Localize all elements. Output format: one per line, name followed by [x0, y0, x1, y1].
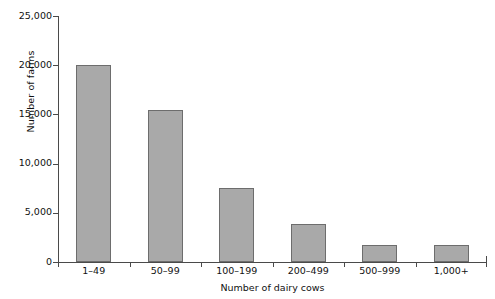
bar-500-999 — [362, 245, 397, 262]
x-tick-label-500-999: 500–999 — [344, 266, 416, 276]
plot-area — [58, 16, 487, 262]
y-tick-label-0: 0 — [6, 257, 52, 267]
x-tick-label-50-99: 50–99 — [130, 266, 202, 276]
y-tick-label-25000: 25,000 — [6, 11, 52, 21]
x-tick-label-100-199: 100–199 — [201, 266, 273, 276]
bar-1-49 — [76, 65, 111, 262]
y-tick-label-15000: 15,000 — [6, 109, 52, 119]
y-axis-tick-labels: 25,000 20,000 15,000 10,000 5,000 0 — [2, 0, 52, 299]
x-tick-label-1-49: 1–49 — [58, 266, 130, 276]
bar-100-199 — [219, 188, 254, 262]
bar-200-499 — [291, 224, 326, 262]
x-axis-tick-labels: 1–49 50–99 100–199 200–499 500–999 1,000… — [58, 266, 487, 280]
bars-layer — [58, 16, 487, 262]
bar-1000-plus — [434, 245, 469, 262]
bar-chart: Number of farms 25,000 20,000 15,000 10,… — [0, 0, 495, 299]
bar-50-99 — [148, 110, 183, 262]
x-tick-label-1000-plus: 1,000+ — [416, 266, 488, 276]
y-tick-label-20000: 20,000 — [6, 60, 52, 70]
x-axis-title: Number of dairy cows — [58, 282, 487, 293]
x-tick-label-200-499: 200–499 — [273, 266, 345, 276]
y-tick-label-5000: 5,000 — [6, 207, 52, 217]
y-tick-label-10000: 10,000 — [6, 158, 52, 168]
